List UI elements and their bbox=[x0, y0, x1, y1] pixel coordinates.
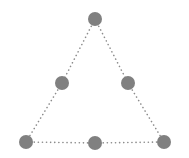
edge-bottom-left-bottom-mid bbox=[26, 142, 95, 143]
edge-layer bbox=[26, 19, 164, 143]
graph-node-right-mid bbox=[121, 76, 135, 90]
graph-node-bottom-right bbox=[157, 135, 171, 149]
graph-node-bottom-mid bbox=[88, 136, 102, 150]
edge-apex-left-mid bbox=[62, 19, 95, 83]
graph-node-apex bbox=[88, 12, 102, 26]
graph-node-bottom-left bbox=[19, 135, 33, 149]
node-layer bbox=[19, 12, 171, 150]
edge-apex-right-mid bbox=[95, 19, 128, 83]
graph-node-left-mid bbox=[55, 76, 69, 90]
graph-diagram bbox=[0, 0, 189, 158]
figure-canvas bbox=[0, 0, 189, 158]
edge-bottom-mid-bottom-right bbox=[95, 142, 164, 143]
edge-left-mid-bottom-left bbox=[26, 83, 62, 142]
edge-right-mid-bottom-right bbox=[128, 83, 164, 142]
